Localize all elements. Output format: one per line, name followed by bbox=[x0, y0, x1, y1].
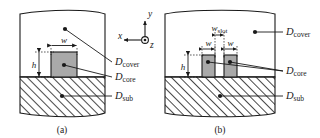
panel-a-caption: (a) bbox=[57, 125, 68, 136]
panel-a-substrate-label-subscript: sub bbox=[123, 94, 134, 103]
panel-b-core-label-subscript: core bbox=[294, 69, 308, 78]
panel-b-cover-label-subscript: cover bbox=[294, 30, 311, 39]
panel-b-substrate-label-subscript: sub bbox=[294, 94, 305, 103]
x-axis-label: x bbox=[117, 31, 123, 41]
panel-b-core-region-right bbox=[224, 55, 237, 77]
panel-a-cover-label-subscript: cover bbox=[123, 60, 140, 69]
panel-b-core-region-left bbox=[202, 55, 215, 77]
z-axis-label: z bbox=[149, 40, 154, 50]
panel-b-width-right-label: w bbox=[227, 38, 233, 48]
panel-b-caption: (b) bbox=[214, 125, 225, 136]
panel-b-slot-label-subscript: slot bbox=[217, 27, 227, 35]
panel-a-core-label-subscript: core bbox=[123, 75, 137, 84]
y-axis-label: y bbox=[147, 9, 153, 19]
panel-b-width-left-label: w bbox=[205, 38, 211, 48]
panel-a-width-label: w bbox=[61, 35, 67, 45]
panel-b-height-label: h bbox=[181, 62, 186, 72]
figure-waveguide-cross-sections: w h Dcover Dcore Dsub (a) y x z bbox=[0, 0, 320, 138]
z-axis-center-dot-icon bbox=[144, 39, 147, 42]
panel-a-height-label: h bbox=[32, 60, 37, 70]
